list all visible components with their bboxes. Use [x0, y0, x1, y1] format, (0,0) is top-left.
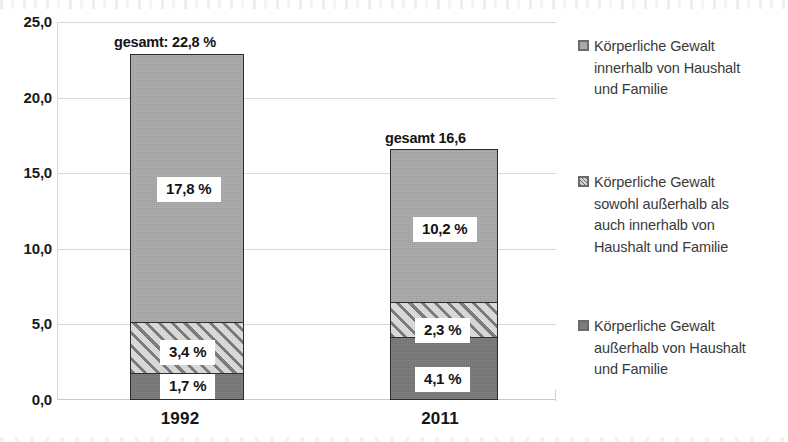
value-label-1992-innerhalb: 17,8 % — [157, 177, 221, 202]
value-label-1992-sowohl: 3,4 % — [160, 340, 215, 365]
plot-area: gesamt: 22,8 % gesamt 16,6 17,8 % 3,4 % … — [57, 22, 556, 400]
legend-line-3: und Familie — [594, 81, 668, 97]
legend-line-2: sowohl außerhalb als — [594, 196, 729, 212]
y-tick-15: 15,0 — [2, 165, 52, 180]
y-tick-25: 25,0 — [2, 14, 52, 29]
y-tick-0: 0,0 — [2, 392, 52, 407]
total-label-1992: gesamt: 22,8 % — [114, 34, 216, 50]
y-tick-10: 10,0 — [2, 241, 52, 256]
legend-label-sowohl: Körperliche Gewaltsowohl außerhalb alsau… — [594, 172, 729, 258]
y-tick-20: 20,0 — [2, 90, 52, 105]
value-label-2011-innerhalb: 10,2 % — [413, 217, 477, 242]
legend-label-ausserhalb: Körperliche Gewaltaußerhalb von Haushalt… — [594, 316, 746, 381]
scan-artifact-bottom — [0, 437, 788, 442]
bar-2011[interactable] — [390, 149, 498, 400]
y-axis-tick-labels: 25,0 20,0 15,0 10,0 5,0 0,0 — [0, 0, 52, 442]
gridline-25 — [57, 22, 556, 23]
legend-item-sowohl[interactable]: Körperliche Gewaltsowohl außerhalb alsau… — [578, 172, 786, 258]
legend-line-2: außerhalb von Haushalt — [594, 340, 746, 356]
legend-label-innerhalb: Körperliche Gewaltinnerhalb von Haushalt… — [594, 36, 740, 101]
legend-line-3: und Familie — [594, 361, 668, 377]
legend-line-2: innerhalb von Haushalt — [594, 60, 740, 76]
legend-line-1: Körperliche Gewalt — [594, 318, 715, 334]
x-label-1992: 1992 — [100, 409, 260, 429]
x-label-2011: 2011 — [360, 409, 520, 429]
legend-swatch-icon-ausserhalb — [578, 320, 589, 331]
legend-swatch-icon-innerhalb — [578, 40, 589, 51]
legend-swatch-icon-sowohl — [578, 176, 589, 187]
legend-line-1: Körperliche Gewalt — [594, 38, 715, 54]
legend-line-1: Körperliche Gewalt — [594, 174, 715, 190]
y-tick-5: 5,0 — [2, 316, 52, 331]
value-label-2011-ausserhalb: 4,1 % — [415, 367, 470, 392]
scan-artifact-top — [0, 0, 788, 9]
legend-line-4: Haushalt und Familie — [594, 239, 728, 255]
legend-line-3: auch innerhalb von — [594, 217, 715, 233]
legend-item-innerhalb[interactable]: Körperliche Gewaltinnerhalb von Haushalt… — [578, 36, 786, 101]
legend-item-ausserhalb[interactable]: Körperliche Gewaltaußerhalb von Haushalt… — [578, 316, 786, 381]
total-label-2011: gesamt 16,6 — [385, 130, 466, 146]
value-label-1992-ausserhalb: 1,7 % — [160, 374, 215, 399]
value-label-2011-sowohl: 2,3 % — [415, 318, 470, 343]
